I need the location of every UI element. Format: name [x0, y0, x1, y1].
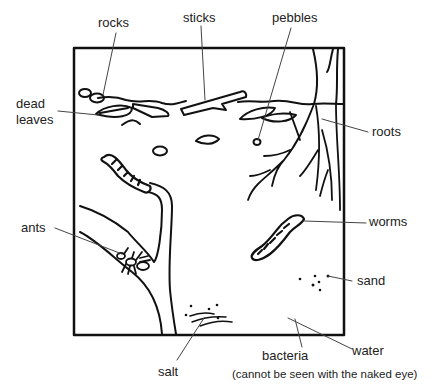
label-pebbles: pebbles: [272, 10, 318, 25]
rock-1: [79, 89, 91, 97]
label-bacteria-note: (cannot be seen with the naked eye): [232, 367, 417, 382]
leader-bacteria: [288, 318, 352, 349]
label-worms: worms: [369, 214, 407, 229]
leader-dead-leaves: [58, 111, 98, 115]
leader-worms: [304, 221, 366, 223]
leaf-3: [196, 135, 219, 143]
label-sticks: sticks: [183, 10, 216, 25]
label-dead-leaves-2: leaves: [16, 112, 54, 127]
leader-salt: [177, 318, 204, 360]
leaf-2: [133, 104, 169, 117]
leaf-6: [122, 120, 140, 125]
sand-dots: [299, 275, 330, 292]
leaf-1: [96, 106, 132, 117]
label-dead-leaves-1: dead: [16, 96, 45, 111]
label-ants: ants: [21, 220, 46, 235]
leader-ants: [55, 228, 122, 254]
soil-illustration: [0, 0, 432, 389]
pebble-large: [153, 147, 167, 156]
salt: [185, 304, 232, 326]
label-salt: salt: [158, 364, 178, 379]
stick: [181, 91, 246, 115]
tree-trunk: [313, 49, 338, 104]
leaf-4: [240, 107, 275, 119]
leader-sand: [328, 276, 352, 281]
worm-2: [252, 215, 304, 260]
leader-pebbles: [258, 28, 291, 140]
leader-rocks: [103, 33, 116, 95]
label-water: water: [352, 343, 384, 358]
soil-diagram: rocks sticks pebbles dead leaves roots a…: [0, 0, 432, 389]
label-rocks: rocks: [98, 15, 129, 30]
pebble: [254, 139, 261, 145]
label-bacteria: bacteria: [262, 348, 308, 363]
soil-box: [74, 48, 344, 335]
leader-sticks: [201, 26, 205, 100]
label-sand: sand: [357, 273, 385, 288]
label-roots: roots: [372, 124, 401, 139]
worm-1: [101, 155, 150, 193]
